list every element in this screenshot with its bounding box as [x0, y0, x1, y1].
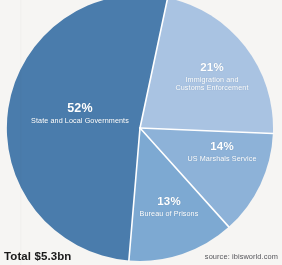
pie-chart-graphic [0, 0, 282, 265]
chart-source-label: source: ibisworld.com [205, 252, 278, 261]
chart-total-label: Total $5.3bn [4, 250, 71, 262]
pie-chart-figure: 52% State and Local Governments 21% Immi… [0, 0, 282, 265]
chart-footer: Total $5.3bn source: ibisworld.com [0, 243, 282, 265]
